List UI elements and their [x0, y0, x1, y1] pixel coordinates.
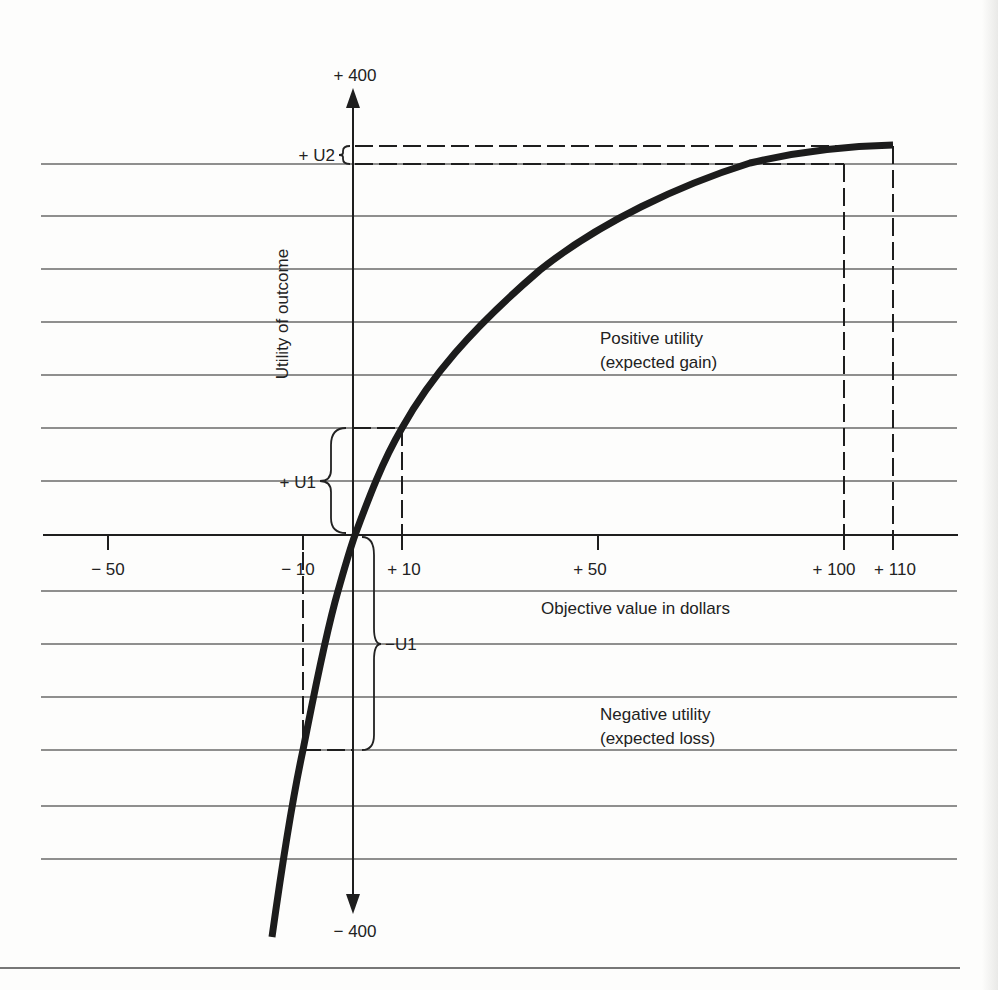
tick-label-minus-50: − 50 [91, 560, 125, 579]
arrow-down-icon [346, 894, 360, 914]
x-axis-title: Objective value in dollars [541, 599, 730, 618]
y-axis-title: Utility of outcome [273, 249, 292, 379]
negative-utility-label-line2: (expected loss) [600, 729, 715, 748]
tick-label-plus-50: + 50 [573, 560, 607, 579]
utility-chart: + 400 − 400 + U2 + U1 −U1 − 50 − 10 + 10… [0, 0, 998, 990]
y-min-label: − 400 [333, 922, 376, 941]
y-axis [346, 88, 360, 914]
x-axis-ticks [108, 535, 893, 550]
tick-label-plus-100: + 100 [812, 560, 855, 579]
arrow-up-icon [346, 88, 360, 108]
u2-label: + U2 [299, 146, 335, 165]
positive-utility-label-line1: Positive utility [600, 329, 703, 348]
y-max-label: + 400 [333, 66, 376, 85]
u1-negative-label: −U1 [385, 635, 417, 654]
u1-positive-label: + U1 [280, 473, 316, 492]
grid-lines [41, 164, 957, 859]
tick-label-plus-110: + 110 [874, 560, 916, 579]
negative-utility-label-line1: Negative utility [600, 705, 711, 724]
page: + 400 − 400 + U2 + U1 −U1 − 50 − 10 + 10… [0, 0, 998, 990]
utility-curve [272, 145, 893, 937]
tick-label-plus-10: + 10 [387, 560, 421, 579]
positive-utility-label-line2: (expected gain) [600, 353, 717, 372]
u2-brace [339, 146, 350, 164]
tick-label-minus-10: − 10 [281, 560, 315, 579]
